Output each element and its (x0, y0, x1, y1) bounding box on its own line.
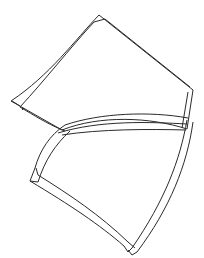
lower-panel (30, 120, 193, 255)
mask-pattern-diagram (0, 0, 204, 258)
upper-panel (11, 15, 193, 131)
